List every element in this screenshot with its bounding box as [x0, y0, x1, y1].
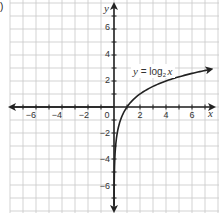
equation-label: y = log2x	[131, 64, 175, 78]
y-axis-label: y	[103, 2, 109, 14]
part-label: )	[0, 1, 3, 12]
equation-arg: x	[166, 65, 172, 77]
x-tick-label: 4	[163, 110, 168, 120]
y-tick-label: 2	[105, 75, 110, 85]
y-tick-label: −6	[100, 181, 110, 191]
y-tick-label: −2	[100, 128, 110, 138]
x-tick-label: −6	[26, 110, 36, 120]
x-tick-label: −2	[79, 110, 89, 120]
origin-label: 0	[104, 110, 109, 120]
x-axis-label: x	[207, 107, 213, 119]
y-tick-label: 4	[105, 49, 110, 59]
x-tick-label: 6	[189, 110, 194, 120]
y-tick-label: 6	[105, 22, 110, 32]
equation-log: = log	[138, 66, 163, 77]
x-tick-label: 2	[137, 110, 142, 120]
y-tick-label: −4	[100, 154, 110, 164]
graph: ) y x −6 −4 −2 0 2 4 6 6 4 2 −2 −4 −6 y …	[0, 0, 219, 213]
x-tick-label: −4	[52, 110, 62, 120]
